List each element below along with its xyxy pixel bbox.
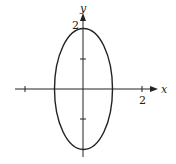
x-axis-label: x: [161, 83, 168, 96]
ellipse-diagram: y x 2 2: [0, 0, 176, 164]
x-axis-arrow-icon: [150, 86, 158, 92]
y-tick-label-2: 2: [72, 19, 79, 32]
y-axis-label: y: [79, 2, 87, 15]
x-tick-label-2: 2: [139, 94, 146, 107]
